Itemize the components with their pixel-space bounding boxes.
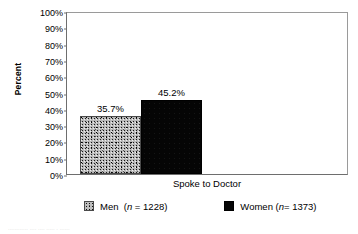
y-axis-tick-mark bbox=[64, 29, 67, 30]
y-axis-tick-mark bbox=[64, 94, 67, 95]
y-axis-tick-mark bbox=[64, 78, 67, 79]
y-axis-tick-label: 80% bbox=[23, 41, 63, 50]
legend-item-women[interactable]: Women (n= 1373) bbox=[224, 201, 316, 212]
y-axis-tick-label: 30% bbox=[23, 123, 63, 132]
bar-women[interactable] bbox=[141, 100, 202, 174]
y-axis-tick-mark bbox=[64, 45, 67, 46]
y-axis-tick-mark bbox=[64, 61, 67, 62]
legend-label-men: Men (n = 1228) bbox=[100, 201, 167, 212]
cropped-caption-remnant: ............ .... .... ..... . ...... bbox=[8, 225, 158, 231]
y-axis-tick-label: 90% bbox=[23, 25, 63, 34]
y-axis-tick-label: 40% bbox=[23, 106, 63, 115]
bar-value-label-women: 45.2% bbox=[158, 88, 185, 98]
y-axis-tick-label: 70% bbox=[23, 57, 63, 66]
y-axis-tick-mark bbox=[64, 127, 67, 128]
y-axis-tick-label: 100% bbox=[23, 9, 63, 18]
plot-area: 100%90%80%70%60%50%40%30%20%10%0% 35.7%4… bbox=[66, 12, 348, 175]
bar-chart-figure: Percent 100%90%80%70%60%50%40%30%20%10%0… bbox=[0, 0, 358, 234]
y-axis-tick-mark bbox=[64, 176, 67, 177]
y-axis-tick-mark bbox=[64, 159, 67, 160]
legend-label-women: Women (n= 1373) bbox=[240, 201, 316, 212]
legend-swatch-men-icon bbox=[84, 201, 94, 211]
y-axis-tick-label: 50% bbox=[23, 90, 63, 99]
bar-men[interactable] bbox=[80, 116, 141, 174]
y-axis-tick-mark bbox=[64, 143, 67, 144]
y-axis-tick-label: 20% bbox=[23, 139, 63, 148]
legend-swatch-women-icon bbox=[224, 201, 234, 211]
x-axis-category-label: Spoke to Doctor bbox=[66, 178, 348, 189]
chart-legend: Men (n = 1228) Women (n= 1373) bbox=[66, 197, 348, 215]
y-axis-tick-mark bbox=[64, 110, 67, 111]
bar-value-label-men: 35.7% bbox=[97, 104, 124, 114]
legend-item-men[interactable]: Men (n = 1228) bbox=[84, 201, 167, 212]
y-axis-tick-label: 60% bbox=[23, 74, 63, 83]
y-axis-tick-label: 0% bbox=[23, 172, 63, 181]
y-axis-tick-mark bbox=[64, 13, 67, 14]
y-axis-title: Percent bbox=[13, 39, 23, 119]
y-axis-tick-label: 10% bbox=[23, 155, 63, 164]
